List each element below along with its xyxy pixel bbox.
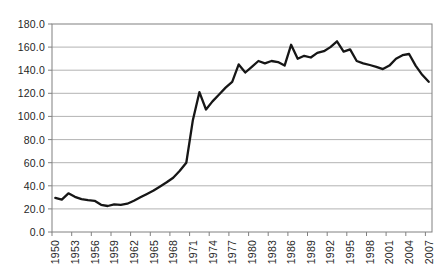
- y-tick-label: 40.0: [24, 180, 45, 192]
- y-tick-label: 140.0: [18, 64, 45, 76]
- x-axis-ticks: [52, 232, 425, 236]
- x-tick-label: 1980: [246, 240, 258, 264]
- x-tick-label: 1956: [89, 240, 101, 264]
- series-line: [55, 41, 428, 206]
- plot-border: [52, 24, 432, 232]
- x-tick-label: 1959: [108, 240, 120, 264]
- x-tick-label: 1992: [324, 240, 336, 264]
- x-tick-label: 1953: [69, 240, 81, 264]
- y-gridlines: [52, 47, 432, 209]
- x-tick-label: 2004: [403, 240, 415, 264]
- y-tick-label: 60.0: [24, 157, 45, 169]
- y-tick-label: 120.0: [18, 87, 45, 99]
- x-tick-label: 1998: [364, 240, 376, 264]
- x-tick-label: 1968: [167, 240, 179, 264]
- y-tick-label: 180.0: [18, 18, 45, 30]
- x-tick-label: 2001: [383, 240, 395, 264]
- x-tick-label: 1989: [305, 240, 317, 264]
- y-axis-labels: 0.020.040.060.080.0100.0120.0140.0160.01…: [18, 18, 52, 238]
- y-tick-label: 0.0: [30, 226, 45, 238]
- x-tick-label: 1977: [226, 240, 238, 264]
- x-tick-label: 1995: [344, 240, 356, 264]
- y-tick-label: 80.0: [24, 134, 45, 146]
- x-tick-label: 1971: [187, 240, 199, 264]
- chart-container: 0.020.040.060.080.0100.0120.0140.0160.01…: [0, 0, 446, 280]
- x-axis-labels: 1950195319561959196219651968197119741977…: [49, 240, 434, 264]
- y-tick-label: 20.0: [24, 203, 45, 215]
- x-tick-label: 2007: [423, 240, 435, 264]
- x-tick-label: 1986: [285, 240, 297, 264]
- x-tick-label: 1983: [266, 240, 278, 264]
- x-tick-label: 1974: [207, 240, 219, 264]
- y-tick-label: 100.0: [18, 110, 45, 122]
- y-tick-label: 160.0: [18, 41, 45, 53]
- x-tick-label: 1965: [148, 240, 160, 264]
- line-chart-svg: 0.020.040.060.080.0100.0120.0140.0160.01…: [0, 0, 446, 280]
- x-tick-label: 1962: [128, 240, 140, 264]
- x-tick-label: 1950: [49, 240, 61, 264]
